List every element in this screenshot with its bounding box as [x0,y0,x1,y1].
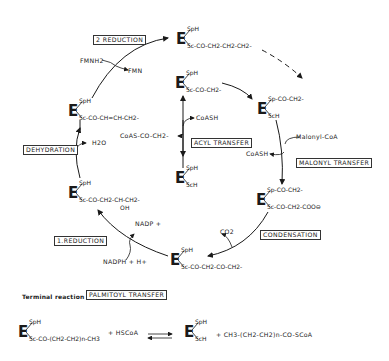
label-coash-malonyl: CoASH [246,151,268,157]
step-malonyl-transfer: MALONYL TRANSFER [296,158,372,168]
label-coash-acyl: CoASH [196,115,218,121]
plus-palmitoyl-coa: + CH3-(CH2-CH2)n-CO-SCoA [216,332,312,338]
label-h2o: H2O [92,140,106,146]
label-co2: CO2 [220,229,234,235]
label-coas-acyl: CoAS-CO-CH2- [120,133,169,139]
label-nadp: NADP + [135,221,161,227]
label-fmn: FMN [128,68,142,74]
enzyme-acetoacetyl: E SpH Sc-CO-CH2-CO-CH2- [170,247,260,275]
label-fmnh2: FMNH2 [80,58,104,64]
enzyme-butyryl: E SpH Sc-CO-CH2-CH2-CH2- [176,26,266,54]
enzyme-malonyl: E Sp-CO-CH2- Sc-CO-CH2-COO⊖ [256,187,346,215]
step-1-reduction: 1.REDUCTION [54,236,107,246]
step-dehydration: DEHYDRATION [23,145,78,155]
enzyme-acetyl: E SpH Sc-CO-CH2- [175,70,265,98]
step-condensation: CONDENSATION [260,230,321,240]
label-nadph: NADPH + H+ [103,259,147,265]
terminal-label: Terminal reaction : [22,293,89,300]
step-acyl-transfer: ACYL TRANSFER [191,138,252,148]
enzyme-acetyl-p: E Sp-CO-CH2- ScH [257,96,347,124]
step-2-reduction: 2 REDUCTION [93,35,146,45]
enzyme-free: E SpH ScH [175,165,265,193]
step-palmitoyl-transfer: PALMITOYL TRANSFER [86,290,167,300]
oh-group: OH [120,205,130,211]
enzyme-enoyl: E SpH Sc-CO-CH=CH-CH2- [68,98,158,126]
plus-hscoa: + HSCoA [108,330,138,336]
label-malonyl-coa: Malonyl-CoA [296,134,338,140]
enzyme-hydroxy: E SpH Sc-CO-CH2-CH-CH2- OH [68,180,158,208]
